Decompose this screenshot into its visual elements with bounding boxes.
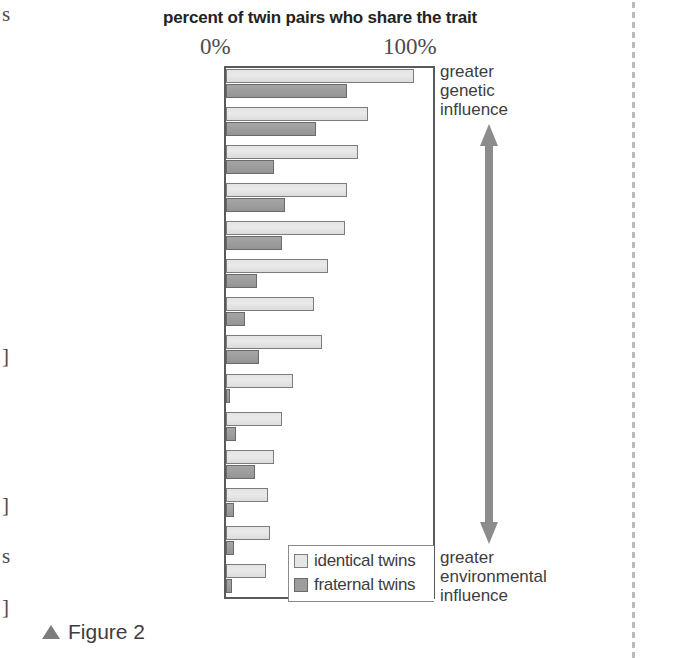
bar-fraternal-twins [226,579,232,593]
chart-row: Alzheimer's [0,180,435,218]
legend-item-identical: identical twins [294,549,430,573]
bar-identical-twins [226,221,345,235]
triangle-up-icon [42,625,60,639]
bar-fraternal-twins [226,160,274,174]
chart-row: reading disability [0,104,435,142]
figure-caption-text: Figure 2 [68,620,145,644]
bar-group [226,259,435,291]
bar-group [226,297,435,329]
annotation-bottom-line-2: environmental [440,567,547,586]
bar-identical-twins [226,526,270,540]
dotted-vertical-rule [631,0,636,658]
chart-row: schizophrenia [0,218,435,256]
annotation-greater-genetic-influence: greater genetic influence [440,62,508,119]
chart-legend: identical twinsfraternal twins [288,545,434,602]
bar-group [226,450,435,482]
bar-identical-twins [226,107,368,121]
double-headed-vertical-arrow-icon [478,124,500,544]
figure-twin-concordance: percent of twin pairs who share the trai… [0,0,620,658]
bar-identical-twins [226,145,358,159]
bar-fraternal-twins [226,312,245,326]
bar-group [226,488,435,520]
bar-group [226,107,435,139]
chart-row: diabetes [0,371,435,409]
legend-item-fraternal: fraternal twins [294,573,430,597]
bar-identical-twins [226,335,322,349]
figure-caption: Figure 2 [42,620,145,644]
bar-fraternal-twins [226,236,282,250]
bar-identical-twins [226,297,314,311]
x-axis-tick-100: 100% [383,34,437,60]
bar-fraternal-twins [226,541,234,555]
chart-row: Crohn's disease [0,485,435,523]
annotation-top-line-2: genetic [440,81,508,100]
x-axis-tick-0: 0% [200,34,231,60]
bar-fraternal-twins [226,503,234,517]
annotation-bottom-line-1: greater [440,548,547,567]
bar-group [226,145,435,177]
bar-group [226,374,435,406]
chart-row: hypertension [0,332,435,370]
bar-group [226,183,435,215]
bar-identical-twins [226,69,414,83]
bar-group [226,412,435,444]
bar-identical-twins [226,412,282,426]
legend-swatch-icon [294,578,308,592]
bar-fraternal-twins [226,84,347,98]
chart-title: percent of twin pairs who share the trai… [110,8,530,28]
bar-group [226,335,435,367]
annotation-bottom-line-3: influence [440,586,547,605]
annotation-greater-environmental-influence: greater environmental influence [440,548,547,605]
legend-swatch-icon [294,554,308,568]
chart-row: bipolar disorder [0,294,435,332]
bar-fraternal-twins [226,427,236,441]
chart-row: multiple sclerosis [0,409,435,447]
bar-rows: heightreading disabilityautismAlzheimer'… [0,66,435,599]
bar-identical-twins [226,564,266,578]
bar-fraternal-twins [226,465,255,479]
bar-identical-twins [226,488,268,502]
annotation-top-line-3: influence [440,100,508,119]
bar-fraternal-twins [226,274,257,288]
chart-row: breast cancer [0,447,435,485]
annotation-top-line-1: greater [440,62,508,81]
bar-identical-twins [226,374,293,388]
bar-fraternal-twins [226,122,316,136]
chart-row: alcoholism [0,256,435,294]
bar-identical-twins [226,183,347,197]
legend-label: fraternal twins [314,575,415,595]
chart-row: autism [0,142,435,180]
legend-label: identical twins [314,551,415,571]
bar-group [226,221,435,253]
bar-identical-twins [226,259,328,273]
bar-group [226,69,435,101]
bar-fraternal-twins [226,350,259,364]
chart-row: height [0,66,435,104]
bar-fraternal-twins [226,389,230,403]
bar-identical-twins [226,450,274,464]
bar-fraternal-twins [226,198,285,212]
